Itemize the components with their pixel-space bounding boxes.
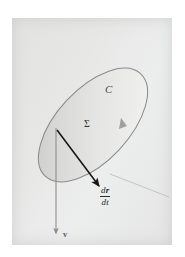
denominator-t: t: [106, 197, 109, 207]
numerator-r: r: [106, 185, 110, 195]
diagram-canvas: [0, 0, 185, 257]
fraction-denominator: dt: [100, 197, 110, 207]
surface-label-sigma: Σ: [84, 119, 90, 129]
velocity-label-v: v: [63, 230, 67, 239]
figure-root: C Σ dr dt v: [0, 0, 185, 257]
dr-dt-label: dr dt: [100, 186, 110, 207]
tangent-line: [110, 174, 169, 197]
curve-label-c: C: [105, 84, 112, 95]
fraction-numerator: dr: [100, 186, 110, 196]
